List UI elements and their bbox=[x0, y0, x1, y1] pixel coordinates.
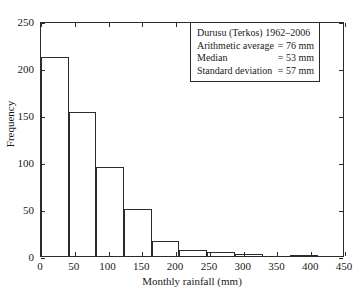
x-tick-mark bbox=[109, 252, 110, 256]
x-tick-mark bbox=[176, 252, 177, 256]
x-tick-mark bbox=[210, 252, 211, 256]
histogram-bar bbox=[69, 112, 97, 256]
y-tick-mark-right bbox=[339, 258, 343, 259]
stats-row: Median= 53 mm bbox=[197, 52, 314, 65]
histogram-bar bbox=[290, 255, 318, 256]
x-tick-mark-top bbox=[142, 23, 143, 27]
stats-row-value: = 53 mm bbox=[278, 52, 314, 65]
stats-title: Durusu (Terkos) 1962–2006 bbox=[197, 27, 314, 40]
y-tick-mark bbox=[41, 23, 45, 24]
y-tick-mark-right bbox=[339, 164, 343, 165]
y-tick-mark bbox=[41, 117, 45, 118]
stats-row-key: Arithmetic average bbox=[197, 40, 274, 53]
histogram-bar bbox=[124, 209, 152, 256]
y-tick-mark-right bbox=[339, 70, 343, 71]
x-tick-mark bbox=[41, 252, 42, 256]
histogram-bar bbox=[179, 250, 207, 256]
stats-rows: Arithmetic average= 76 mmMedian= 53 mmSt… bbox=[197, 40, 314, 78]
y-tick-mark-right bbox=[339, 211, 343, 212]
stats-row-value: = 76 mm bbox=[278, 40, 314, 53]
x-tick-mark bbox=[75, 252, 76, 256]
y-axis-title: Frequency bbox=[4, 84, 16, 164]
y-tick-mark bbox=[41, 164, 45, 165]
y-tick-label: 250 bbox=[0, 17, 34, 28]
histogram-bar bbox=[96, 167, 124, 256]
x-axis-title: Monthly rainfall (mm) bbox=[40, 275, 344, 287]
y-tick-label: 200 bbox=[0, 64, 34, 75]
histogram-bar bbox=[41, 57, 69, 256]
x-tick-mark-top bbox=[176, 23, 177, 27]
stats-row-key: Median bbox=[197, 52, 228, 65]
y-tick-label: 0 bbox=[0, 252, 34, 263]
stats-row-value: = 57 mm bbox=[278, 65, 314, 78]
stats-row-key: Standard deviation bbox=[197, 65, 272, 78]
x-tick-mark bbox=[277, 252, 278, 256]
statistics-legend-box: Durusu (Terkos) 1962–2006 Arithmetic ave… bbox=[190, 22, 320, 82]
y-tick-mark-right bbox=[339, 117, 343, 118]
histogram-bar bbox=[207, 252, 235, 256]
histogram-figure: 050100150200250300350400450 050100150200… bbox=[0, 0, 358, 297]
y-tick-mark bbox=[41, 70, 45, 71]
stats-row: Standard deviation= 57 mm bbox=[197, 65, 314, 78]
x-tick-mark-top bbox=[345, 23, 346, 27]
x-tick-mark bbox=[311, 252, 312, 256]
stats-row: Arithmetic average= 76 mm bbox=[197, 40, 314, 53]
x-tick-mark bbox=[244, 252, 245, 256]
x-tick-mark-top bbox=[75, 23, 76, 27]
x-tick-mark bbox=[142, 252, 143, 256]
y-tick-label: 50 bbox=[0, 205, 34, 216]
histogram-bar bbox=[235, 254, 263, 256]
y-tick-mark bbox=[41, 258, 45, 259]
y-tick-mark bbox=[41, 211, 45, 212]
x-tick-mark bbox=[345, 252, 346, 256]
x-tick-label: 450 bbox=[324, 260, 358, 272]
y-tick-mark-right bbox=[339, 23, 343, 24]
x-tick-mark-top bbox=[109, 23, 110, 27]
